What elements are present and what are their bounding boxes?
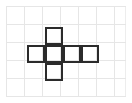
cube-net-shape xyxy=(0,0,132,103)
net-cell-center xyxy=(45,45,63,63)
net-cell-right xyxy=(63,45,81,63)
net-cell-top xyxy=(45,27,63,45)
net-cell-far-right xyxy=(81,45,99,63)
net-cell-bottom xyxy=(45,63,63,81)
figure-canvas: Cube net on square grid xyxy=(0,0,132,103)
net-cell-left xyxy=(27,45,45,63)
